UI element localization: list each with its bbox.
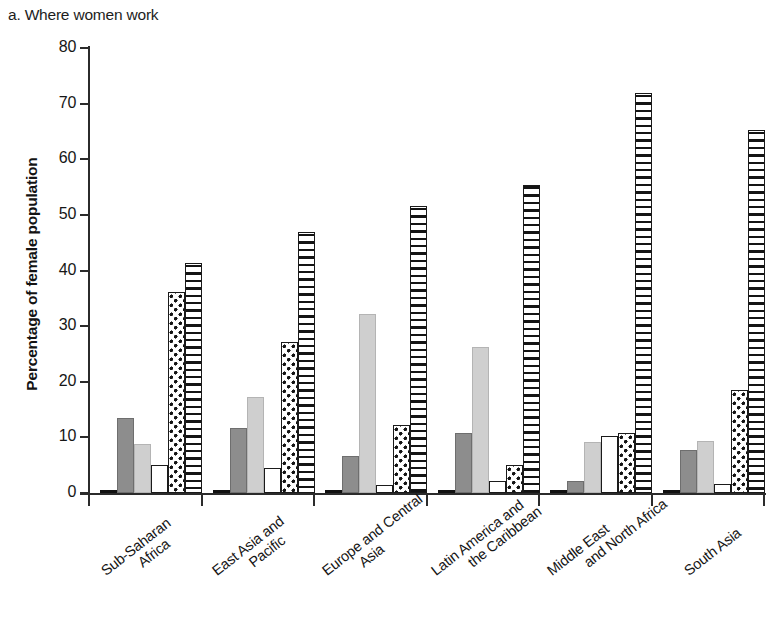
y-axis-tick <box>80 103 89 105</box>
y-axis-tick <box>80 436 89 438</box>
x-axis-labels: Sub-SaharanAfricaEast Asia andPacificEur… <box>0 0 770 625</box>
x-axis-separator-tick <box>538 495 540 506</box>
y-axis-tick <box>80 381 89 383</box>
x-axis-separator-tick <box>763 495 765 506</box>
x-axis-tick-label: Latin America andthe Caribbean <box>428 491 544 592</box>
y-axis-tick <box>80 47 89 49</box>
y-axis-tick <box>80 158 89 160</box>
x-axis-tick-label: Sub-SaharanAfrica <box>98 515 183 591</box>
x-axis-separator-tick <box>426 495 428 506</box>
x-axis-tick-label: South Asia <box>681 525 744 579</box>
x-axis-separator-tick <box>313 495 315 506</box>
y-axis-tick <box>80 325 89 327</box>
y-axis-tick <box>80 270 89 272</box>
x-axis-separator-tick <box>201 495 203 506</box>
x-axis-tick-label: Europe and CentralAsia <box>319 491 435 591</box>
x-axis-separator-tick <box>651 495 653 506</box>
y-axis-tick <box>80 214 89 216</box>
x-axis-separator-tick <box>88 495 90 506</box>
y-axis-tick <box>80 492 89 494</box>
x-axis-tick-label: East Asia andPacific <box>209 513 297 591</box>
